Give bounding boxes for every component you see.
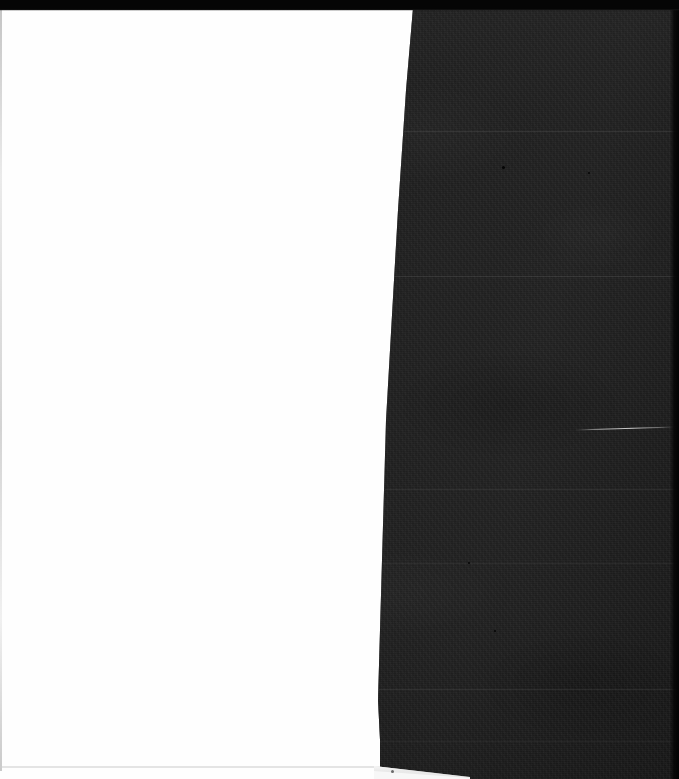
dust-speck <box>588 172 590 174</box>
left-page-bottom-edge <box>0 766 380 768</box>
dust-speck <box>391 770 394 773</box>
scan-seam-line <box>383 563 679 564</box>
dust-speck <box>502 166 505 169</box>
right-margin-black-band <box>670 0 679 779</box>
scan-seam-line <box>385 489 679 490</box>
scan-seam-line <box>404 131 679 132</box>
scan-seam-line <box>379 689 679 690</box>
left-page-edge <box>0 9 2 771</box>
dust-speck <box>468 562 470 564</box>
scanned-page-canvas <box>0 0 679 779</box>
dust-speck <box>494 630 496 632</box>
top-black-scan-edge <box>0 0 679 10</box>
scan-seam-line <box>393 276 679 277</box>
scan-seam-line <box>379 741 679 742</box>
